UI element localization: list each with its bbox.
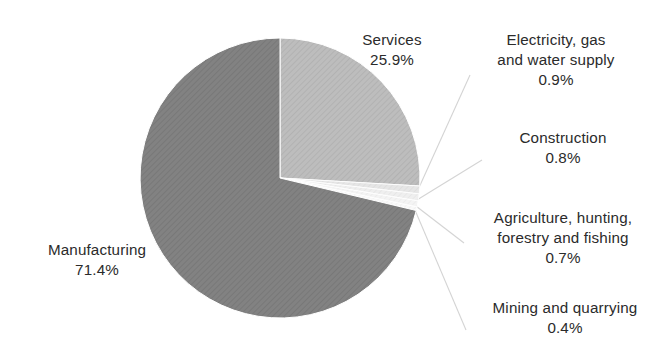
pie-label-manufacturing-name: Manufacturing <box>22 240 172 260</box>
leader-line-electricity <box>412 75 470 203</box>
pie-label-services-name: Services <box>338 30 446 50</box>
pie-label-electricity: Electricity, gas and water supply 0.9% <box>476 30 636 89</box>
pie-label-agriculture: Agriculture, hunting, forestry and fishi… <box>468 208 658 267</box>
leader-lines <box>412 75 482 330</box>
pie-label-construction-name: Construction <box>488 128 638 148</box>
pie-label-construction-value: 0.8% <box>488 148 638 168</box>
leader-line-agriculture <box>412 203 464 243</box>
pie-label-agriculture-name-line1: Agriculture, hunting, <box>468 208 658 228</box>
pie-label-electricity-name-line2: and water supply <box>476 50 636 70</box>
pie-label-services: Services 25.9% <box>338 30 446 70</box>
pie-label-electricity-name-line1: Electricity, gas <box>476 30 636 50</box>
leader-line-mining <box>412 203 466 330</box>
pie-label-agriculture-value: 0.7% <box>468 248 658 268</box>
pie-label-mining-value: 0.4% <box>470 318 660 338</box>
pie-label-services-value: 25.9% <box>338 50 446 70</box>
pie-label-construction: Construction 0.8% <box>488 128 638 168</box>
pie-label-manufacturing-value: 71.4% <box>22 260 172 280</box>
pie-label-mining-name: Mining and quarrying <box>470 298 660 318</box>
pie-chart: Services 25.9% Electricity, gas and wate… <box>0 0 672 364</box>
pie-label-mining: Mining and quarrying 0.4% <box>470 298 660 338</box>
pie-slices <box>140 38 420 318</box>
pie-label-manufacturing: Manufacturing 71.4% <box>22 240 172 280</box>
pie-label-electricity-value: 0.9% <box>476 70 636 90</box>
leader-line-construction <box>412 160 482 203</box>
pie-label-agriculture-name-line2: forestry and fishing <box>468 228 658 248</box>
